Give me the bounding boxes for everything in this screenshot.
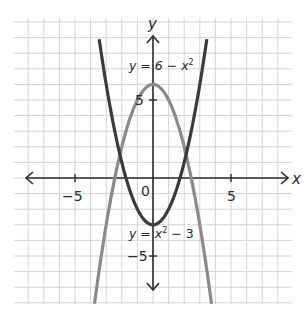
curve2-text: y = x [128,226,163,241]
curve-label-6-minus-x-squared: y = 6 − x2 [128,58,194,73]
tick-label-x-5: 5 [227,188,236,204]
y-axis-label: y [147,15,158,33]
curve1-text: y = 6 − x [128,58,189,73]
curve1-sup: 2 [189,58,194,67]
axes [26,36,288,290]
curve-label-x-squared-minus-3: y = x2 − 3 [128,226,194,241]
origin-label: 0 [141,183,150,199]
tick-label-x-neg5: −5 [62,188,83,204]
graph-canvas: x y 0 −5 5 5 −5 y = 6 − x2 y = x2 − 3 [0,0,305,318]
tick-label-y-neg5: −5 [127,248,148,264]
x-axis-label: x [291,170,301,188]
tick-label-y-5: 5 [135,92,144,108]
curve2-suffix: − 3 [167,226,193,241]
